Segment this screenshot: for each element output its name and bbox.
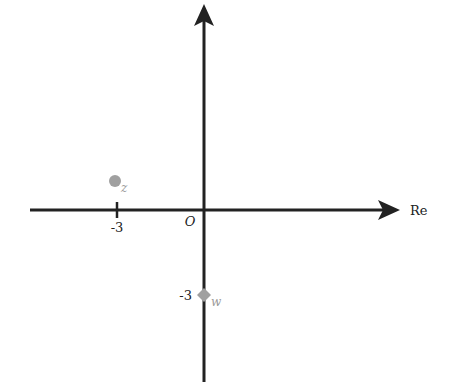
point-z-label: z	[120, 181, 128, 195]
x-tick-label: -3	[111, 220, 124, 235]
point-w-label: w	[211, 295, 222, 309]
real-axis	[30, 200, 400, 220]
complex-plane-diagram: -3 O Re -3 z w	[0, 0, 451, 384]
real-axis-label: Re	[410, 203, 428, 218]
imaginary-axis	[194, 4, 214, 382]
point-z	[109, 175, 121, 187]
point-w	[197, 288, 211, 302]
origin-label: O	[185, 214, 196, 229]
y-tick-label: -3	[179, 288, 192, 303]
